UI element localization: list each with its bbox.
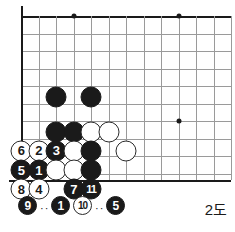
legend-stone-move-10: 10 xyxy=(73,196,92,215)
stone-move-number: 5 xyxy=(18,163,25,176)
diagram-caption: 2도 xyxy=(205,198,227,219)
board-vline xyxy=(231,16,232,180)
legend-move-number: 5 xyxy=(112,200,118,212)
stone-move-number: 4 xyxy=(35,182,42,195)
legend-move-number: 9 xyxy=(24,200,30,212)
legend-dots: ·· xyxy=(40,203,49,214)
stone-move-number: 11 xyxy=(86,183,96,194)
stone-black xyxy=(81,160,102,181)
board-vline xyxy=(214,16,215,180)
stone-black xyxy=(81,140,102,161)
board-vline xyxy=(179,16,180,180)
board-vline xyxy=(144,16,145,180)
legend-stone-move-1: 1 xyxy=(51,196,70,215)
legend-stone-black: 5 xyxy=(106,196,125,215)
stone-move-number: 2 xyxy=(35,144,42,157)
move-legend: 9··110··5 xyxy=(0,196,180,222)
board-vline xyxy=(161,16,162,180)
legend-stone-move-5: 5 xyxy=(106,196,125,215)
star-point xyxy=(71,14,76,19)
legend-move-number: 1 xyxy=(57,200,63,212)
board-vline xyxy=(196,16,197,180)
board-vline xyxy=(109,16,110,180)
stone-move-number: 3 xyxy=(53,144,60,157)
stone-move-number: 7 xyxy=(70,182,77,195)
legend-move-number: 10 xyxy=(78,201,87,211)
star-point xyxy=(176,14,181,19)
legend-stone-move-9: 9 xyxy=(18,196,37,215)
go-diagram: 6235184711 9··110··5 2도 xyxy=(0,0,235,232)
legend-stone-white: 10 xyxy=(73,196,92,215)
stone-white xyxy=(116,140,137,161)
stone-move-number: 1 xyxy=(35,163,42,176)
legend-stone-black: 9 xyxy=(18,196,37,215)
stone-white xyxy=(98,121,119,142)
legend-dots: ·· xyxy=(95,203,104,214)
legend-stone-black: 1 xyxy=(51,196,70,215)
star-point xyxy=(176,119,181,124)
stone-black xyxy=(81,86,102,107)
stone-black xyxy=(46,86,67,107)
stone-move-number: 6 xyxy=(18,144,25,157)
stone-move-number: 8 xyxy=(18,182,25,195)
